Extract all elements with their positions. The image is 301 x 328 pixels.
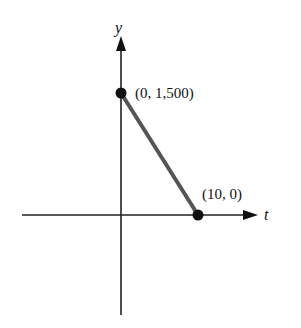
point-b [193, 210, 204, 221]
point-b-label: (10, 0) [202, 186, 242, 203]
point-a-label: (0, 1,500) [135, 85, 194, 102]
point-a [116, 88, 127, 99]
x-axis-label: t [264, 206, 269, 223]
x-axis-arrow-icon [243, 210, 258, 220]
y-axis-arrow-icon [116, 36, 126, 51]
y-axis-label: y [113, 19, 123, 37]
graph: y t (0, 1,500) (10, 0) [0, 0, 301, 328]
line-segment [121, 93, 198, 215]
